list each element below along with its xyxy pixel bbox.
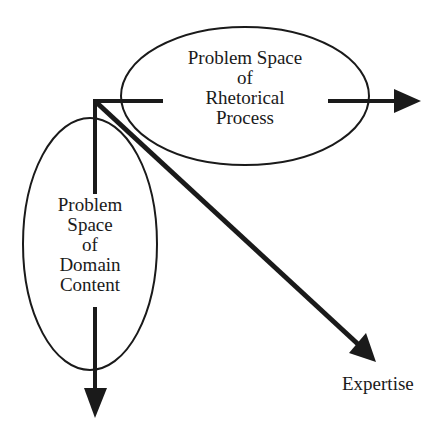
- domain-label-line: Domain: [35, 255, 145, 275]
- expertise-label: Expertise: [342, 374, 426, 394]
- rhetorical-label-line: Process: [170, 108, 320, 128]
- rhetorical-label-line: of: [170, 68, 320, 88]
- domain-label-line: of: [35, 235, 145, 255]
- right-arrowhead-icon: [394, 89, 421, 113]
- rhetorical-label-line: Rhetorical: [170, 88, 320, 108]
- domain-label-line: Space: [35, 215, 145, 235]
- rhetorical-process-label: Problem Space of Rhetorical Process: [170, 48, 320, 128]
- down-arrowhead-icon: [84, 388, 107, 418]
- domain-content-label: Problem Space of Domain Content: [35, 195, 145, 295]
- domain-label-line: Content: [35, 275, 145, 295]
- rhetorical-label-line: Problem Space: [170, 48, 320, 68]
- domain-label-line: Problem: [35, 195, 145, 215]
